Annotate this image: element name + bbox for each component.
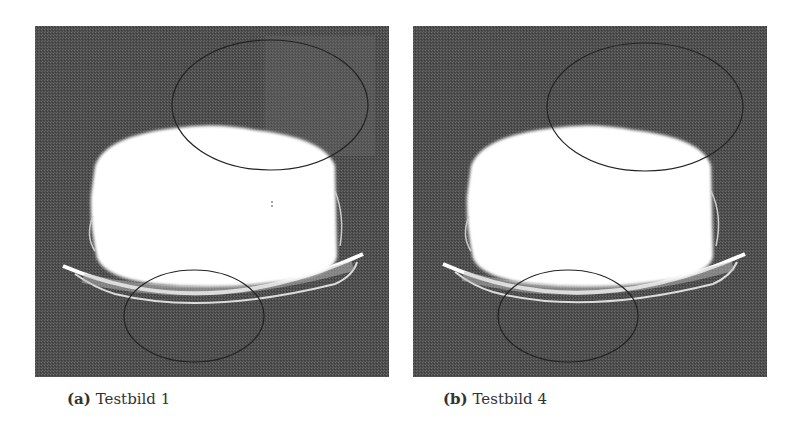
caption-a: (a) Testbild 1 [67, 390, 170, 408]
grayscale-image-a [35, 26, 389, 377]
grayscale-image-b [413, 26, 767, 377]
caption-text: Testbild 1 [96, 390, 171, 408]
figure-testbild-4 [413, 26, 767, 377]
figure-testbild-1 [35, 26, 389, 377]
caption-b: (b) Testbild 4 [443, 390, 547, 408]
caption-label: (b) [443, 390, 468, 408]
caption-label: (a) [67, 390, 91, 408]
caption-text: Testbild 4 [472, 390, 547, 408]
